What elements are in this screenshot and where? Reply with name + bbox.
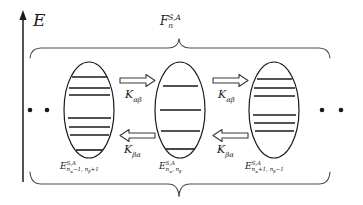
manifold-label-subscript: n — [168, 22, 181, 30]
rate-subscript: αβ — [133, 97, 142, 104]
state-label-base: E — [60, 161, 67, 171]
arrow-backward-right — [213, 130, 248, 142]
rate-subscript: βα — [132, 152, 141, 159]
arrow-forward-right — [213, 75, 248, 87]
dot — [45, 108, 50, 113]
state-label-middle: ES,Anα, nβ — [159, 161, 181, 174]
continuation-dots-left — [28, 108, 50, 113]
state-label-subscript: nα+1, nβ−1 — [252, 167, 284, 174]
dot — [28, 108, 33, 113]
energy-axis-label: E — [33, 12, 45, 29]
manifold-label-indices: S,An — [168, 14, 181, 29]
rate-subscript: αβ — [226, 97, 235, 104]
state-group-middle — [155, 62, 205, 158]
manifold-label-top: FS,An — [160, 14, 181, 29]
dot — [320, 108, 325, 113]
arrow-forward-left — [120, 75, 155, 87]
manifold-brace-top — [30, 39, 330, 58]
rate-label-forward-left: Kαβ — [125, 89, 142, 103]
dot — [339, 108, 344, 113]
state-group-left — [64, 62, 114, 158]
rate-label-backward-left: Kβα — [124, 144, 141, 158]
energy-axis-arrowhead — [19, 10, 26, 20]
energy-levels — [68, 77, 111, 150]
state-label-base: E — [159, 161, 166, 171]
state-group-right — [249, 62, 299, 158]
energy-levels — [160, 86, 201, 149]
state-label-indices: S,Anα, nβ — [166, 161, 182, 174]
manifold-brace-bottom — [30, 172, 330, 196]
continuation-dots-right — [320, 108, 344, 113]
energy-level-diagram: E FS,An Kαβ Kβα Kαβ Kβα ES,Anα−1, nβ+1 E… — [0, 0, 363, 205]
state-label-subscript: nα, nβ — [166, 167, 182, 174]
state-label-indices: S,Anα+1, nβ−1 — [252, 161, 284, 174]
energy-levels — [253, 79, 296, 131]
rate-subscript: βα — [225, 152, 234, 159]
rate-label-forward-right: Kαβ — [218, 89, 235, 103]
state-label-right: ES,Anα+1, nβ−1 — [245, 161, 284, 174]
state-label-base: E — [245, 161, 252, 171]
state-label-left: ES,Anα−1, nβ+1 — [60, 161, 99, 174]
state-label-indices: S,Anα−1, nβ+1 — [67, 161, 99, 174]
rate-label-backward-right: Kβα — [217, 144, 234, 158]
arrow-backward-left — [120, 130, 155, 142]
manifold-label-base: F — [160, 14, 168, 28]
diagram-canvas — [0, 0, 363, 205]
energy-axis — [19, 10, 26, 182]
state-label-subscript: nα−1, nβ+1 — [67, 167, 99, 174]
state-group-ellipse — [249, 62, 299, 158]
